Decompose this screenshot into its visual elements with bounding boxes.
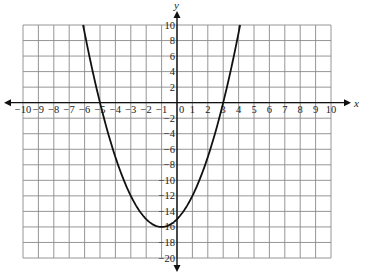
y-tick-label: −14 [159, 206, 176, 217]
y-tick-label: 4 [170, 66, 176, 77]
y-tick-label: −10 [159, 175, 175, 186]
parabola-graph: −10−9−8−7−6−5−4−3−2−1012345678910 108642… [0, 0, 370, 274]
x-tick-label: −4 [110, 104, 122, 115]
x-tick-label: 7 [282, 104, 287, 115]
x-tick-label: 5 [251, 104, 256, 115]
y-tick-label: 8 [170, 35, 175, 46]
y-axis-up-arrow-icon [174, 11, 181, 18]
y-tick-label: −4 [164, 128, 176, 139]
x-tick-label: 2 [205, 104, 210, 115]
y-tick-label: −6 [164, 144, 175, 155]
axes [4, 11, 351, 272]
x-tick-label: 6 [267, 104, 272, 115]
x-axis-label: x [353, 97, 359, 109]
y-tick-label: −2 [164, 113, 175, 124]
y-tick-label: 6 [170, 51, 175, 62]
x-tick-label: −8 [48, 104, 59, 115]
x-tick-label: −10 [15, 104, 31, 115]
x-tick-label: 10 [326, 104, 337, 115]
x-tick-label: −6 [79, 104, 90, 115]
y-tick-label: −8 [164, 159, 175, 170]
x-tick-label: −2 [141, 104, 152, 115]
x-axis-left-arrow-icon [4, 99, 11, 106]
x-tick-label: −9 [33, 104, 44, 115]
x-tick-label: 8 [298, 104, 303, 115]
y-tick-label: 2 [170, 82, 175, 93]
x-axis-right-arrow-icon [344, 99, 351, 106]
x-tick-label: −7 [64, 104, 75, 115]
y-tick-label: −20 [159, 253, 175, 264]
y-axis-label: y [173, 0, 179, 11]
x-tick-label: 9 [313, 104, 318, 115]
x-tick-label: −3 [125, 104, 136, 115]
y-tick-label: −18 [159, 237, 175, 248]
x-tick-label: 4 [236, 104, 242, 115]
y-axis-down-arrow-icon [174, 265, 181, 272]
x-tick-label: 0 [179, 104, 184, 115]
y-tick-label: 10 [165, 20, 176, 31]
y-tick-label: −12 [159, 190, 175, 201]
x-tick-labels: −10−9−8−7−6−5−4−3−2−1012345678910 [15, 104, 336, 115]
x-tick-label: 1 [190, 104, 195, 115]
